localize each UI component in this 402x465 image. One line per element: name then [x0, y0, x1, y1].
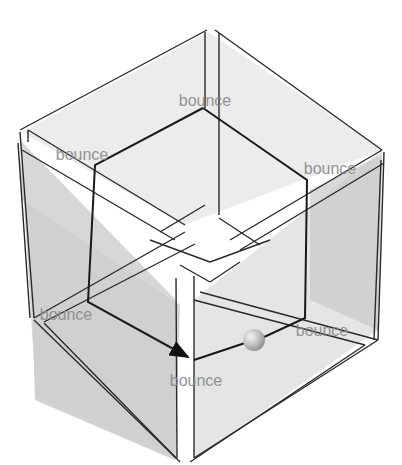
- ball: [243, 329, 265, 351]
- bounce-label-lower-left: bounce: [40, 306, 93, 323]
- bounce-label-upper-right: bounce: [304, 160, 357, 177]
- bounce-label-top: bounce: [179, 92, 232, 109]
- bouncing-ball-cube-diagram: bounce bounce bounce bounce bounce bounc…: [0, 0, 402, 465]
- bounce-label-lower-right: bounce: [296, 322, 349, 339]
- bounce-label-upper-left: bounce: [56, 146, 109, 163]
- bounce-label-bottom: bounce: [170, 372, 223, 389]
